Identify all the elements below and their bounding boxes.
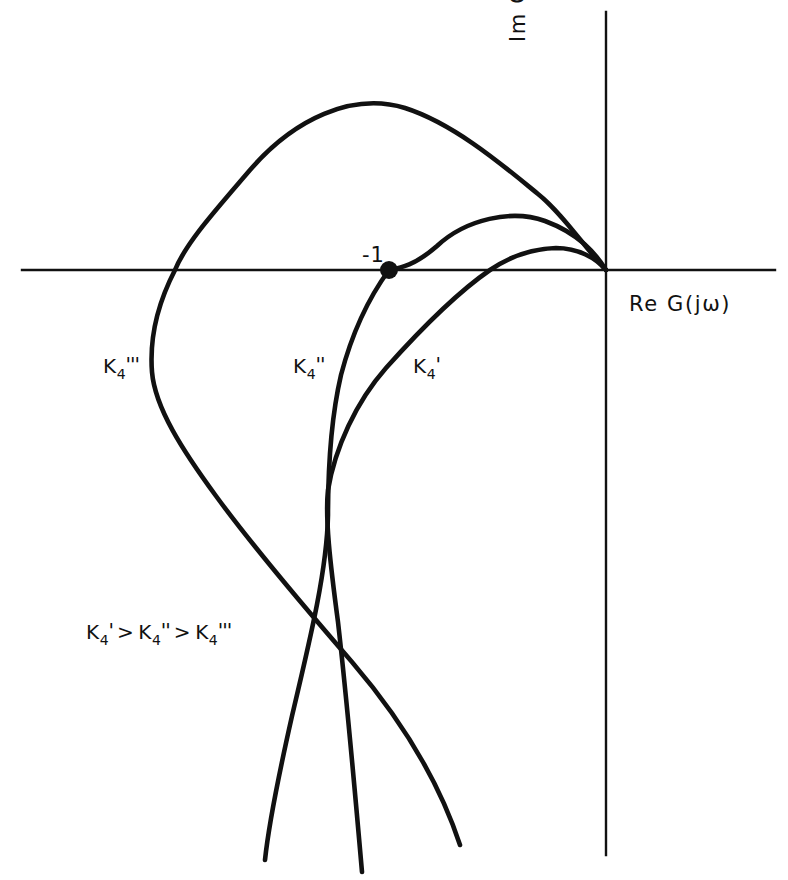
nyquist-plot-svg <box>0 0 788 880</box>
k-base: K <box>413 354 427 378</box>
curve-label-k4-prime: K4' <box>413 352 440 382</box>
critical-point-label: -1 <box>362 243 385 267</box>
k-prime: ''' <box>126 352 140 376</box>
k-base: K <box>103 354 117 378</box>
k-subscript: 4 <box>100 632 109 648</box>
k-subscript: 4 <box>307 366 316 382</box>
k-subscript: 4 <box>427 366 436 382</box>
k-prime: '' <box>161 618 170 642</box>
k-subscript: 4 <box>152 632 161 648</box>
k-prime: ' <box>436 352 441 376</box>
curve-k4-triple-prime <box>152 103 606 845</box>
k-base: K <box>293 354 307 378</box>
gain-ordering-annotation: K4'>K4''>K4''' <box>86 618 231 648</box>
nyquist-figure: Im G(jω) Re G(jω) -1 K4''' K4'' K4' K4'>… <box>0 0 788 880</box>
inequality-operator: > <box>113 620 138 644</box>
curve-label-k4-triple-prime: K4''' <box>103 352 139 382</box>
inequality-operator: > <box>170 620 195 644</box>
curve-k4-prime <box>327 248 606 872</box>
k-base: K <box>86 620 100 644</box>
curve-k4-double-prime <box>265 216 606 860</box>
real-axis-label: Re G(jω) <box>629 292 731 316</box>
k-subscript: 4 <box>117 366 126 382</box>
k-prime: ''' <box>218 618 232 642</box>
k-subscript: 4 <box>209 632 218 648</box>
k-prime: '' <box>316 352 325 376</box>
k-base: K <box>195 620 209 644</box>
k-base: K <box>138 620 152 644</box>
curve-label-k4-double-prime: K4'' <box>293 352 325 382</box>
imaginary-axis-label: Im G(jω) <box>506 0 530 42</box>
